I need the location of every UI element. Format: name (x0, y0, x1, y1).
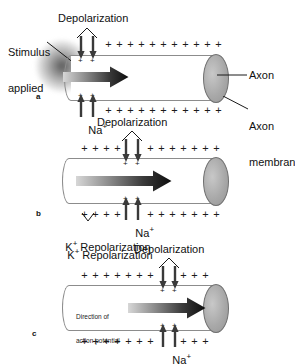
repolarization-label-c: K+ Repolarization (49, 237, 153, 273)
depolarization-arrow-b-1 (122, 139, 127, 163)
stimulus-applied-label: Stimulus applied (8, 22, 50, 118)
propagation-arrow-a (63, 66, 129, 88)
charge-row-top-a: +++++++++++ (103, 39, 224, 50)
stimulus-applied-line1: Stimulus (8, 46, 50, 58)
action-potential-figure: Stimulus applied +++++++++++ +++++++++++… (0, 0, 295, 364)
depolarization-arrow-a-2 (89, 36, 94, 60)
panel-c: ++++++++++ ++++++++++ + + + + (0, 245, 295, 364)
depolarization-chevron-b (121, 130, 143, 141)
sodium-symbol-c: Na (172, 354, 186, 364)
depolarization-chevron-c (158, 257, 180, 268)
depolarization-chevron-a (76, 27, 98, 38)
sodium-label-c: Na+ (154, 342, 191, 364)
depolarization-arrow-b-2 (134, 139, 139, 163)
direction-of-action-potential-label: Direction of action potential (76, 297, 120, 361)
sodium-charge-c: + (186, 352, 191, 361)
charge-row-top-b: +++++++++++ (79, 143, 222, 154)
charge-row-bottom-a: +++++++++++ (103, 105, 224, 116)
propagation-arrow-b (76, 170, 172, 192)
repolarization-chevron-b (81, 213, 95, 222)
depolarization-arrow-a-1 (77, 36, 82, 60)
propagation-arrow-c (128, 297, 206, 319)
direction-line2: action potential (76, 337, 120, 345)
repolarization-word-c: Repolarization (79, 249, 152, 261)
panel-a: Stimulus applied +++++++++++ +++++++++++… (0, 0, 295, 125)
axon-callout-line (217, 73, 247, 77)
depolarization-arrow-c-1 (159, 266, 164, 290)
direction-line1: Direction of (76, 313, 120, 321)
axon-label: Axon (249, 69, 274, 81)
stimulus-applied-line2: applied (8, 82, 50, 94)
axon-endcap-b (203, 157, 229, 206)
axon-membrane-callout-line (223, 96, 249, 110)
panel-letter-b: b (36, 209, 41, 218)
depolarization-label-b: Depolarization (97, 116, 167, 128)
panel-b: +++++++++++ +++++++++++ + + + + (0, 125, 295, 245)
potassium-symbol-c: K (67, 249, 74, 261)
depolarization-arrow-c-2 (171, 266, 176, 290)
panel-letter-a: a (36, 92, 40, 101)
depolarization-label-a: Depolarization (58, 12, 128, 24)
axon-endcap-c (203, 284, 229, 333)
panel-letter-c: c (32, 329, 36, 338)
